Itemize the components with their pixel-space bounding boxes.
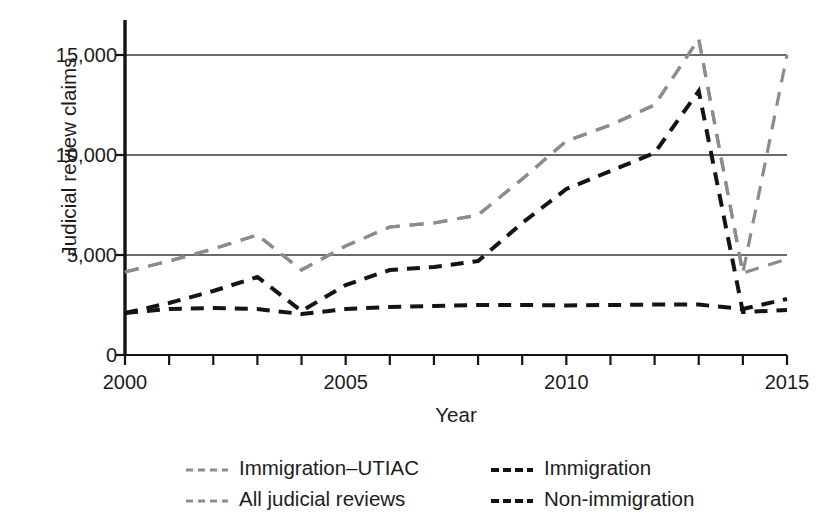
legend-swatch-immigration	[491, 462, 533, 474]
chart-figure: 05,00010,00015,000 2000200520102015 Judi…	[0, 0, 837, 530]
legend-dash-glyph	[186, 464, 228, 476]
legend-swatch-immigration-utiac	[186, 462, 228, 474]
y-axis-title: Judicial review claims	[57, 0, 81, 322]
legend-label-immigration: Immigration	[544, 457, 651, 479]
legend-label-immigration-utiac: Immigration–UTIAC	[239, 457, 419, 479]
chart-legend: Immigration–UTIAC All judicial reviews I…	[186, 455, 746, 519]
legend-entry-immigration-utiac: Immigration–UTIAC	[186, 455, 419, 481]
x-axis-title: Year	[125, 403, 787, 427]
legend-dash-glyph	[491, 495, 533, 507]
legend-dash-glyph	[186, 495, 228, 507]
x-tick-label-2015: 2015	[732, 372, 837, 392]
legend-label-all-judicial-reviews: All judicial reviews	[239, 488, 405, 510]
legend-swatch-all-judicial-reviews	[186, 493, 228, 505]
legend-entry-all-judicial-reviews: All judicial reviews	[186, 486, 405, 512]
legend-label-non-immigration: Non-immigration	[544, 488, 694, 510]
x-tick-label-2010: 2010	[511, 372, 621, 392]
x-axis-tick-labels: 2000200520102015	[0, 0, 837, 400]
legend-swatch-non-immigration	[491, 493, 533, 505]
x-tick-label-2005: 2005	[291, 372, 401, 392]
legend-entry-immigration: Immigration	[491, 455, 651, 481]
legend-entry-non-immigration: Non-immigration	[491, 486, 694, 512]
x-tick-label-2000: 2000	[70, 372, 180, 392]
legend-dash-glyph	[491, 464, 533, 476]
